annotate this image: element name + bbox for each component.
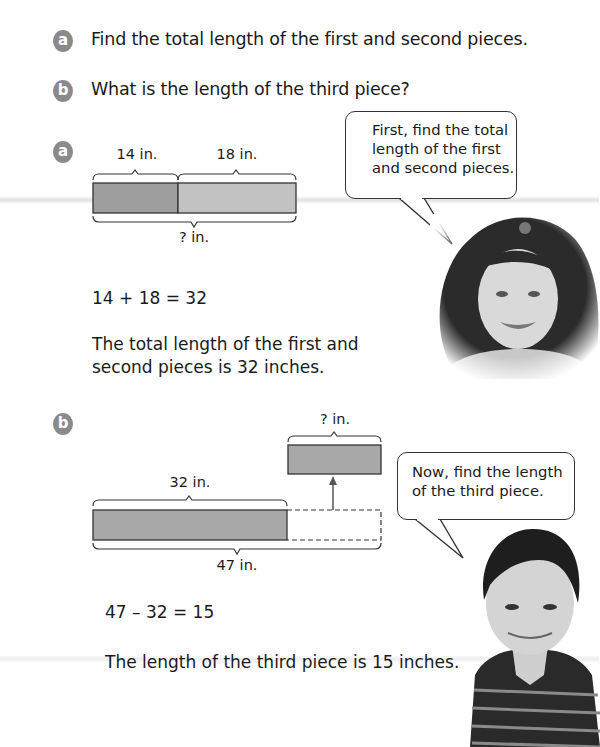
statement-b: The length of the third piece is 15 inch… <box>105 651 459 674</box>
boy-photo <box>460 525 600 747</box>
speech-bubble-b-tail-join <box>0 0 599 600</box>
equation-b: 47 – 32 = 15 <box>105 602 214 622</box>
